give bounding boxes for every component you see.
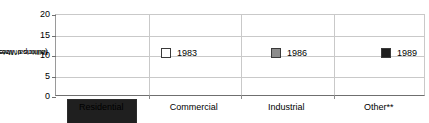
legend-item-1983[interactable]: 1983 xyxy=(161,48,197,58)
legend-item-1989[interactable]: 1989 xyxy=(381,48,417,58)
x-axis-category-label: Industrial xyxy=(268,101,305,113)
y-axis-tick-label: 5 xyxy=(45,71,50,80)
x-axis-tick-mark xyxy=(334,95,335,99)
y-axis-tick-mark xyxy=(52,97,56,98)
y-axis-tick-labels: 05101520 xyxy=(28,0,50,104)
x-axis-tick-mark xyxy=(149,95,150,99)
legend-label: 1983 xyxy=(177,49,197,58)
plot-area: 198319861989 xyxy=(55,14,425,96)
legend-label: 1989 xyxy=(397,49,417,58)
x-axis-tick-mark xyxy=(241,95,242,99)
y-axis-tick-label: 20 xyxy=(40,10,50,19)
legend-swatch-1983 xyxy=(161,48,171,58)
bar-group xyxy=(56,15,149,95)
legend-swatch-1986 xyxy=(271,48,281,58)
legend-label: 1986 xyxy=(287,49,307,58)
legend-swatch-1989 xyxy=(381,48,391,58)
y-axis-tick-label: 10 xyxy=(40,51,50,60)
x-axis-category-label: Other** xyxy=(364,101,394,113)
y-axis-tick-label: 0 xyxy=(45,92,50,101)
x-axis-category-label: Residential xyxy=(79,101,124,113)
x-axis-tick-labels: ResidentialCommercialIndustrialOther** xyxy=(55,101,425,121)
legend-item-1986[interactable]: 1986 xyxy=(271,48,307,58)
x-axis-category-label: Commercial xyxy=(170,101,218,113)
stacked-bar-chart: Municipal Water Use (billions of litres/… xyxy=(0,0,429,123)
y-axis-title: Municipal Water Use (billions of litres/… xyxy=(0,0,30,104)
y-axis-tick-label: 15 xyxy=(40,30,50,39)
